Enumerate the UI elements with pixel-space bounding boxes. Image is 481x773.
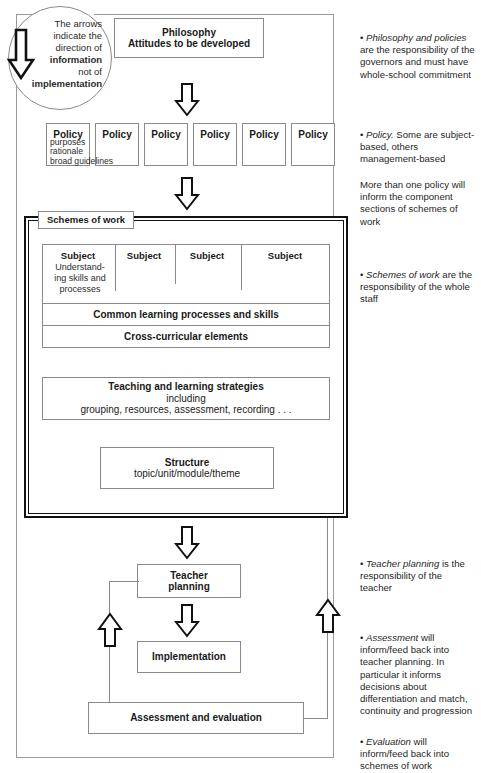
assessment-label: Assessment and evaluation: [130, 712, 262, 724]
policy-box-2: Policy: [95, 123, 139, 166]
teacher-planning-line-1: Teacher: [170, 570, 208, 582]
feedback-left-top-segment: [109, 581, 139, 582]
flow-arrow-planning-to-implementation: [173, 604, 201, 642]
annotation-evaluation-feedback: • Evaluation will inform/feed back into …: [360, 736, 476, 773]
subject-detail-line-2: ing skills and: [46, 273, 114, 284]
teaching-strategies-box: Teaching and learning strategies includi…: [42, 377, 330, 420]
structure-box: Structure topic/unit/module/theme: [100, 447, 274, 489]
flow-arrow-philosophy-to-policy: [173, 83, 201, 121]
teaching-strategies-line-3: grouping, resources, assessment, recordi…: [80, 404, 291, 416]
policy-box-5: Policy: [242, 123, 286, 166]
annotation-teacher-planning-responsibility: • Teacher planning is the responsibility…: [360, 558, 476, 595]
annotation-body: More than one policy will inform the com…: [360, 179, 465, 227]
policy-box-4: Policy: [193, 123, 237, 166]
policy-box-label: Policy: [53, 129, 82, 140]
annotation-emphasis: Policy.: [366, 129, 394, 140]
implementation-box: Implementation: [137, 641, 241, 673]
policy-box-6: Policy: [291, 123, 335, 166]
common-learning-label: Common learning processes and skills: [93, 309, 279, 321]
teaching-strategies-title: Teaching and learning strategies: [108, 381, 263, 393]
legend-line-6: implementation: [32, 78, 102, 89]
legend-line-4: information: [50, 54, 102, 65]
annotation-policy-subject-based: • Policy. Some are subject-based, others…: [360, 129, 476, 166]
annotation-emphasis: Schemes of work: [366, 269, 440, 280]
annotation-more-than-one-policy: More than one policy will inform the com…: [360, 179, 476, 228]
outer-frame-top-right-segment: [94, 14, 334, 15]
feedback-arrow-up-left-icon: [96, 612, 124, 652]
policy-box-label: Policy: [102, 129, 131, 140]
annotation-schemes-of-work-responsibility: • Schemes of work are the responsibility…: [360, 269, 476, 306]
common-learning-box: Common learning processes and skills: [42, 303, 330, 326]
annotation-philosophy-and-policies: • Philosophy and policies are the respon…: [360, 32, 476, 81]
annotation-emphasis: Philosophy and policies: [366, 32, 466, 43]
policy-box-3: Policy: [144, 123, 188, 166]
teaching-strategies-line-2: including: [166, 393, 205, 405]
subject-label-2: Subject: [114, 250, 174, 261]
cross-curricular-label: Cross-curricular elements: [124, 331, 248, 343]
feedback-left-bottom-segment: [109, 702, 139, 703]
structure-title: Structure: [165, 457, 209, 469]
feedback-right-bottom-segment: [304, 718, 327, 719]
philosophy-box: Philosophy Attitudes to be developed: [114, 18, 264, 58]
diagram-canvas: The arrows indicate the direction of inf…: [0, 0, 481, 773]
flow-arrow-policy-to-schemes: [173, 177, 201, 215]
subject-label-3: Subject: [174, 250, 240, 261]
policy-box-1: Policy: [46, 123, 90, 166]
annotation-body: will inform/feed back into teacher plann…: [360, 632, 472, 716]
subject-detail-line-3: processes: [46, 284, 114, 295]
philosophy-subtitle: Attitudes to be developed: [128, 38, 250, 50]
teacher-planning-line-2: planning: [168, 581, 210, 593]
legend-line-2: indicate the: [53, 30, 102, 41]
annotation-emphasis: Assessment: [366, 632, 418, 643]
annotation-emphasis: Evaluation: [366, 736, 411, 747]
legend-text: The arrows indicate the direction of inf…: [30, 18, 102, 90]
teacher-planning-box: Teacher planning: [137, 564, 241, 598]
policy-box-label: Policy: [249, 129, 278, 140]
flow-arrow-schemes-to-teacher-planning: [173, 526, 201, 564]
legend-line-1: The arrows: [54, 18, 102, 29]
feedback-arrow-up-right-icon: [314, 598, 342, 638]
philosophy-title: Philosophy: [162, 27, 216, 39]
policy-box-label: Policy: [151, 129, 180, 140]
subject-detail-text: Understand- ing skills and processes: [46, 262, 114, 294]
annotation-assessment-feedback: • Assessment will inform/feed back into …: [360, 632, 476, 717]
cross-curricular-box: Cross-curricular elements: [42, 326, 330, 348]
policy-box-label: Policy: [298, 129, 327, 140]
subject-label-4: Subject: [240, 250, 330, 261]
legend-line-5: not of: [78, 66, 102, 77]
assessment-and-evaluation-box: Assessment and evaluation: [88, 702, 304, 734]
policy-box-label: Policy: [200, 129, 229, 140]
legend-line-3: direction of: [56, 42, 102, 53]
implementation-label: Implementation: [152, 651, 226, 663]
subject-detail-line-1: Understand-: [46, 262, 114, 273]
structure-subtitle: topic/unit/module/theme: [134, 468, 240, 480]
schemes-of-work-label: Schemes of work: [38, 211, 134, 229]
annotation-emphasis: Teacher planning: [366, 558, 439, 569]
annotation-body: are the responsibility of the governors …: [360, 44, 475, 79]
subject-label-1: Subject: [42, 250, 114, 261]
